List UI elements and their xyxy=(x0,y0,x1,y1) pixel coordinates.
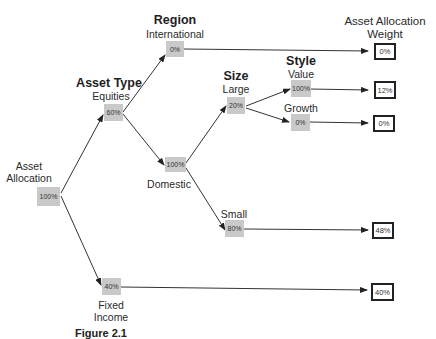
weight-header-line1: Asset Allocation xyxy=(344,15,425,28)
domestic-label: Domestic xyxy=(147,178,191,190)
output-large-growth: 0% xyxy=(373,115,395,132)
growth-label: Growth xyxy=(284,102,318,114)
large-node: 20% xyxy=(227,97,245,114)
weight-header-line2: Weight xyxy=(344,28,425,41)
root-label: Asset Allocation xyxy=(6,160,52,184)
growth-node: 0% xyxy=(291,114,310,131)
output-small: 48% xyxy=(372,222,394,239)
fixed-income-node: 40% xyxy=(102,278,121,295)
value-node: 100% xyxy=(291,80,311,97)
root-node: 100% xyxy=(37,187,60,206)
output-international: 0% xyxy=(374,43,396,60)
equities-label: Equities xyxy=(92,90,129,102)
style-header: Style xyxy=(286,54,316,68)
large-label: Large xyxy=(223,83,250,95)
asset-type-header: Asset Type xyxy=(76,76,142,90)
small-label: Small xyxy=(221,208,247,220)
international-label: International xyxy=(146,28,204,40)
weight-header: Asset Allocation Weight xyxy=(344,15,425,41)
root-label-line2: Allocation xyxy=(6,172,52,184)
international-node: 0% xyxy=(166,41,184,57)
domestic-node: 100% xyxy=(165,157,186,172)
value-label: Value xyxy=(288,68,314,80)
figure-caption: Figure 2.1 xyxy=(75,327,127,339)
root-label-line1: Asset xyxy=(6,160,52,172)
output-large-value: 12% xyxy=(374,81,396,99)
output-fixed-income: 40% xyxy=(371,283,394,301)
size-header: Size xyxy=(223,69,248,83)
small-node: 80% xyxy=(225,220,244,237)
region-header: Region xyxy=(154,13,196,27)
fixed-income-label: Fixed Income xyxy=(94,299,128,323)
equities-node: 60% xyxy=(104,104,123,121)
fixed-income-label-line1: Fixed xyxy=(94,299,128,311)
fixed-income-label-line2: Income xyxy=(94,311,128,323)
